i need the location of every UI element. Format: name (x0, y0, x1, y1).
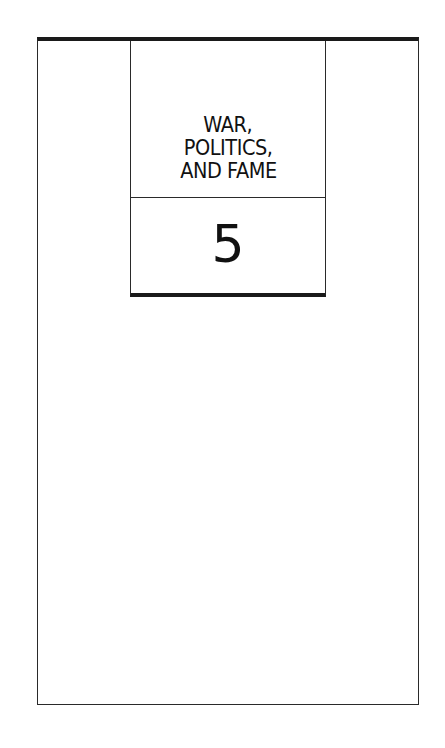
chapter-number-cell: 5 (131, 198, 325, 293)
chapter-title-line-3: AND FAME (180, 160, 276, 183)
chapter-title: WAR, POLITICS, AND FAME (131, 41, 325, 198)
chapter-heading-box: WAR, POLITICS, AND FAME 5 (130, 41, 326, 297)
chapter-title-line-1: WAR, (204, 114, 253, 137)
chapter-number: 5 (211, 218, 244, 270)
chapter-title-line-2: POLITICS, (184, 137, 273, 160)
